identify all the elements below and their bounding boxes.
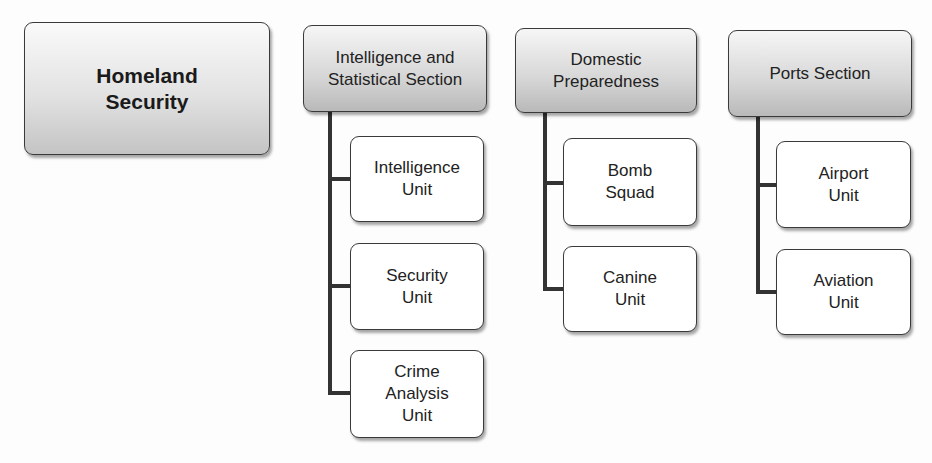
section-label: Intelligence and Statistical Section [328, 47, 462, 91]
intelligence-statistical-section-box: Intelligence and Statistical Section [303, 25, 487, 112]
domestic-preparedness-box: Domestic Preparedness [515, 28, 697, 113]
unit-label: Security Unit [386, 265, 447, 309]
intelligence-unit-connector [328, 177, 352, 181]
canine-unit-box: Canine Unit [563, 246, 697, 332]
aviation-unit-connector [756, 290, 778, 294]
ports-section-connector [756, 115, 760, 294]
homeland-security-box: Homeland Security [24, 22, 270, 155]
security-unit-box: Security Unit [350, 243, 484, 330]
domestic-preparedness-connector [543, 111, 547, 291]
security-unit-connector [328, 284, 352, 288]
crime-analysis-unit-box: Crime Analysis Unit [350, 350, 484, 438]
airport-unit-connector [756, 183, 778, 187]
unit-label: Aviation Unit [813, 270, 873, 314]
crime-analysis-unit-connector [328, 391, 352, 395]
airport-unit-box: Airport Unit [776, 141, 911, 228]
aviation-unit-box: Aviation Unit [776, 249, 911, 335]
unit-label: Canine Unit [603, 267, 657, 311]
unit-label: Airport Unit [818, 163, 868, 207]
section-label: Ports Section [769, 63, 870, 85]
homeland-security-label: Homeland Security [96, 63, 198, 115]
ports-section-box: Ports Section [728, 30, 912, 117]
intelligence-unit-box: Intelligence Unit [350, 136, 484, 222]
unit-label: Crime Analysis Unit [385, 361, 448, 427]
unit-label: Intelligence Unit [374, 157, 460, 201]
bomb-squad-box: Bomb Squad [563, 138, 697, 226]
intelligence-section-connector [328, 110, 332, 395]
unit-label: Bomb Squad [605, 160, 654, 204]
section-label: Domestic Preparedness [553, 49, 659, 93]
bomb-squad-connector [543, 181, 565, 185]
canine-unit-connector [543, 287, 565, 291]
